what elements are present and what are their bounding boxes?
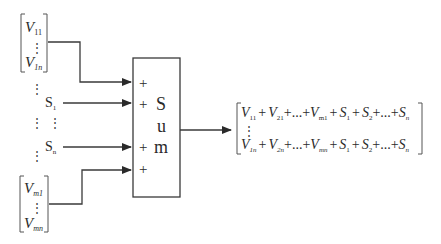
label-letter-m: m — [154, 137, 168, 157]
output-vector: V11+V21+...+Vm1+S1+S2+...+Sn ⋮ V1n+V2n+.… — [237, 103, 422, 154]
vector-ellipsis: ⋮ — [31, 41, 43, 55]
vector-element-last: V1n — [25, 54, 42, 72]
output-row-2: V1n+V2n+...+Vmn+S1+S2+...+Sn — [241, 137, 410, 154]
input-vector-bottom: Vm1 ⋮ Vmn — [20, 176, 48, 233]
output-row-1: V11+V21+...+Vm1+S1+S2+...+Sn — [241, 105, 410, 122]
right-ellipsis: ⋮ — [49, 116, 61, 130]
label-letter-s: S — [156, 94, 166, 114]
left-ellipsis-2: ⋮ — [31, 116, 43, 130]
right-bracket — [44, 176, 48, 232]
sign-2: + — [139, 96, 147, 112]
sum-block: + + + + S u m — [133, 58, 180, 197]
vector-element-last: Vmn — [24, 215, 43, 233]
output-ellipsis: ⋮ — [243, 124, 255, 138]
right-bracket — [43, 14, 47, 72]
vector-element-first: Vm1 — [24, 180, 43, 198]
label-letter-u: u — [157, 116, 166, 136]
vector-element-first: V11 — [25, 19, 42, 37]
right-bracket — [418, 103, 422, 154]
sign-4: + — [139, 161, 147, 177]
left-ellipsis-3: ⋮ — [31, 149, 43, 163]
sum-block-diagram: V11 ⋮ V1n ⋮ ⋮ ⋮ ⋮ S1 Sn Vm1 ⋮ Vmn + + + … — [0, 0, 441, 244]
input-vector-top: V11 ⋮ V1n — [21, 14, 47, 72]
scalar-s1: S1 — [45, 95, 57, 112]
connector-top-vector — [48, 42, 131, 82]
connector-bottom-vector — [49, 170, 131, 204]
scalar-sn: Sn — [45, 139, 57, 156]
vector-ellipsis: ⋮ — [31, 201, 43, 215]
sign-3: + — [139, 139, 147, 155]
left-ellipsis-1: ⋮ — [31, 82, 43, 96]
sign-1: + — [139, 75, 147, 91]
